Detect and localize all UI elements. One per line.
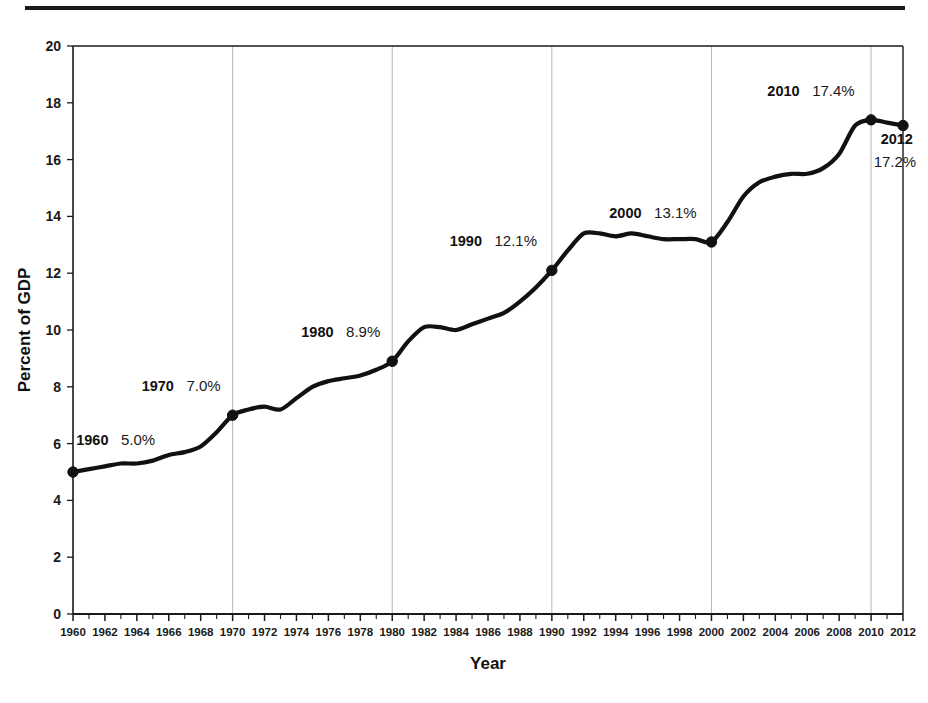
annotation-year-1990: 1990	[450, 233, 482, 249]
x-tick-label: 1966	[156, 626, 182, 638]
annotation-year-1980: 1980	[301, 324, 333, 340]
x-tick-label: 1994	[603, 626, 629, 638]
y-tick-label: 2	[53, 549, 61, 565]
line-chart: 02468101214161820Percent of GDP196019621…	[0, 0, 928, 703]
x-tick-label: 1980	[379, 626, 405, 638]
data-point-1970	[227, 410, 237, 420]
x-tick-label: 1972	[252, 626, 278, 638]
annotation-value-1980: 8.9%	[346, 323, 380, 340]
data-point-1980	[387, 356, 397, 366]
x-tick-label: 1996	[635, 626, 661, 638]
y-tick-label: 4	[53, 492, 61, 508]
x-tick-label: 1964	[124, 626, 150, 638]
y-tick-label: 10	[45, 322, 61, 338]
x-tick-label: 1968	[188, 626, 214, 638]
data-point-2010	[866, 115, 876, 125]
y-tick-label: 14	[45, 208, 61, 224]
annotation-value-2000: 13.1%	[654, 204, 697, 221]
y-axis: 02468101214161820	[45, 38, 73, 622]
x-tick-label: 1978	[348, 626, 374, 638]
x-tick-label: 1984	[443, 626, 469, 638]
annotation-value-1960: 5.0%	[121, 431, 155, 448]
x-tick-label: 2010	[858, 626, 884, 638]
data-point-2012	[898, 120, 908, 130]
annotation-year-2010: 2010	[767, 83, 799, 99]
y-tick-label: 0	[53, 606, 61, 622]
annotation-year-1970: 1970	[142, 378, 174, 394]
x-tick-label: 1962	[92, 626, 118, 638]
x-axis-title: Year	[470, 654, 506, 673]
annotation-year-2000: 2000	[609, 205, 641, 221]
x-tick-label: 1986	[475, 626, 501, 638]
y-axis-title: Percent of GDP	[15, 268, 34, 393]
y-tick-label: 18	[45, 95, 61, 111]
data-point-1960	[68, 467, 78, 477]
annotation-value-2012: 17.2%	[874, 153, 917, 170]
x-tick-label: 1970	[220, 626, 246, 638]
annotation-value-1970: 7.0%	[186, 377, 220, 394]
annotation-value-2010: 17.4%	[812, 82, 855, 99]
x-tick-label: 1990	[539, 626, 565, 638]
x-tick-label: 2006	[794, 626, 820, 638]
x-tick-label: 2008	[826, 626, 852, 638]
x-tick-label: 2012	[890, 626, 916, 638]
x-tick-label: 1976	[316, 626, 342, 638]
x-tick-label: 2002	[731, 626, 757, 638]
x-tick-label: 1974	[284, 626, 310, 638]
x-tick-label: 1960	[60, 626, 86, 638]
plot-background	[73, 46, 903, 614]
annotation-value-1990: 12.1%	[494, 232, 537, 249]
x-tick-label: 2000	[699, 626, 725, 638]
x-tick-label: 1988	[507, 626, 533, 638]
y-tick-label: 8	[53, 379, 61, 395]
y-tick-label: 16	[45, 152, 61, 168]
data-point-1990	[547, 265, 557, 275]
x-axis: 1960196219641966196819701972197419761978…	[60, 614, 916, 638]
data-point-2000	[706, 237, 716, 247]
x-tick-label: 1982	[411, 626, 437, 638]
y-tick-label: 20	[45, 38, 61, 54]
annotation-year-2012: 2012	[881, 131, 913, 147]
y-tick-label: 12	[45, 265, 61, 281]
x-tick-label: 1992	[571, 626, 597, 638]
annotation-year-1960: 1960	[76, 432, 108, 448]
x-tick-label: 1998	[667, 626, 693, 638]
x-tick-label: 2004	[763, 626, 789, 638]
y-tick-label: 6	[53, 436, 61, 452]
chart-figure: 02468101214161820Percent of GDP196019621…	[0, 0, 928, 703]
